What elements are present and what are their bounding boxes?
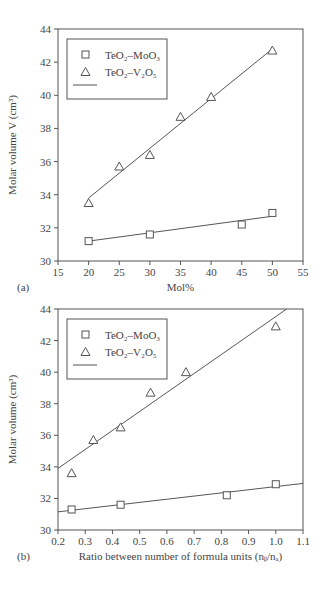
x-tick-label: 15 <box>53 266 65 278</box>
legend-label-v2o5: TeO₂–V₂O₅ <box>105 66 157 78</box>
x-tick-label: 25 <box>114 266 126 278</box>
x-tick-label: 0.6 <box>160 535 174 547</box>
y-tick-label: 42 <box>40 335 51 347</box>
legend-label-moo3: TeO₂–MoO₃ <box>105 329 160 341</box>
y-tick-label: 32 <box>40 492 51 504</box>
y-tick-label: 40 <box>40 89 52 101</box>
y-tick-label: 42 <box>40 56 51 68</box>
x-tick-label: 45 <box>236 266 248 278</box>
x-tick-label: 35 <box>175 266 187 278</box>
x-axis-label: Ratio between number of formula units (n… <box>79 550 283 563</box>
y-tick-label: 34 <box>40 461 52 473</box>
x-tick-label: 0.7 <box>187 535 201 547</box>
y-tick-label: 36 <box>40 429 52 441</box>
x-tick-label: 0.4 <box>106 535 120 547</box>
data-point-triangle <box>176 112 185 120</box>
x-tick-label: 0.8 <box>214 535 228 547</box>
y-tick-label: 44 <box>40 23 52 35</box>
fit-line <box>58 483 303 511</box>
x-tick-label: 30 <box>144 266 156 278</box>
data-point-square <box>269 209 276 216</box>
y-tick-label: 38 <box>40 398 52 410</box>
y-tick-label: 40 <box>40 366 52 378</box>
data-point-square <box>117 501 124 508</box>
x-tick-label: 0.3 <box>78 535 92 547</box>
x-tick-label: 0.9 <box>242 535 256 547</box>
data-point-triangle <box>67 469 76 477</box>
x-tick-label: 50 <box>267 266 279 278</box>
y-tick-label: 44 <box>40 303 52 315</box>
x-tick-label: 1.0 <box>269 535 283 547</box>
data-point-triangle <box>115 162 124 170</box>
data-point-square <box>223 492 230 499</box>
x-tick-label: 0.5 <box>133 535 147 547</box>
legend-label-v2o5: TeO₂–V₂O₅ <box>105 346 157 358</box>
legend-label-moo3: TeO₂–MoO₃ <box>105 49 160 61</box>
fit-line <box>89 216 273 241</box>
data-point-triangle <box>145 150 154 158</box>
y-tick-label: 30 <box>40 524 52 536</box>
data-point-square <box>146 231 153 238</box>
y-tick-label: 30 <box>40 255 52 267</box>
panel-tag: (a) <box>17 281 30 294</box>
x-tick-label: 1.1 <box>296 535 310 547</box>
data-point-triangle <box>84 199 93 207</box>
x-tick-label: 0.2 <box>51 535 65 547</box>
y-axis-label: Molar volume (cm³) <box>6 374 19 464</box>
x-tick-label: 40 <box>206 266 218 278</box>
data-point-triangle <box>268 46 277 54</box>
x-tick-label: 55 <box>298 266 310 278</box>
panel-tag: (b) <box>17 550 30 563</box>
data-point-square <box>85 238 92 245</box>
data-point-triangle <box>89 436 98 444</box>
data-point-triangle <box>271 322 280 330</box>
legend: TeO₂–MoO₃TeO₂–V₂O₅ <box>67 39 167 99</box>
chart-figure: 1520253035404550553032343638404244Mol%Mo… <box>0 0 323 591</box>
y-tick-label: 34 <box>40 189 52 201</box>
y-tick-label: 36 <box>40 156 52 168</box>
y-tick-label: 38 <box>40 122 52 134</box>
chart-panel-b: 0.20.30.40.50.60.70.80.91.01.13032343638… <box>6 303 310 563</box>
data-point-square <box>68 506 75 513</box>
chart-panel-a: 1520253035404550553032343638404244Mol%Mo… <box>6 23 309 294</box>
x-axis-label: Mol% <box>167 281 195 293</box>
y-axis-label: Molar volume V (cm³) <box>6 95 19 195</box>
data-point-square <box>238 221 245 228</box>
legend: TeO₂–MoO₃TeO₂–V₂O₅ <box>67 319 167 379</box>
data-point-triangle <box>146 388 155 396</box>
x-tick-label: 20 <box>83 266 95 278</box>
y-tick-label: 32 <box>40 222 51 234</box>
data-point-triangle <box>181 368 190 376</box>
data-point-square <box>272 481 279 488</box>
